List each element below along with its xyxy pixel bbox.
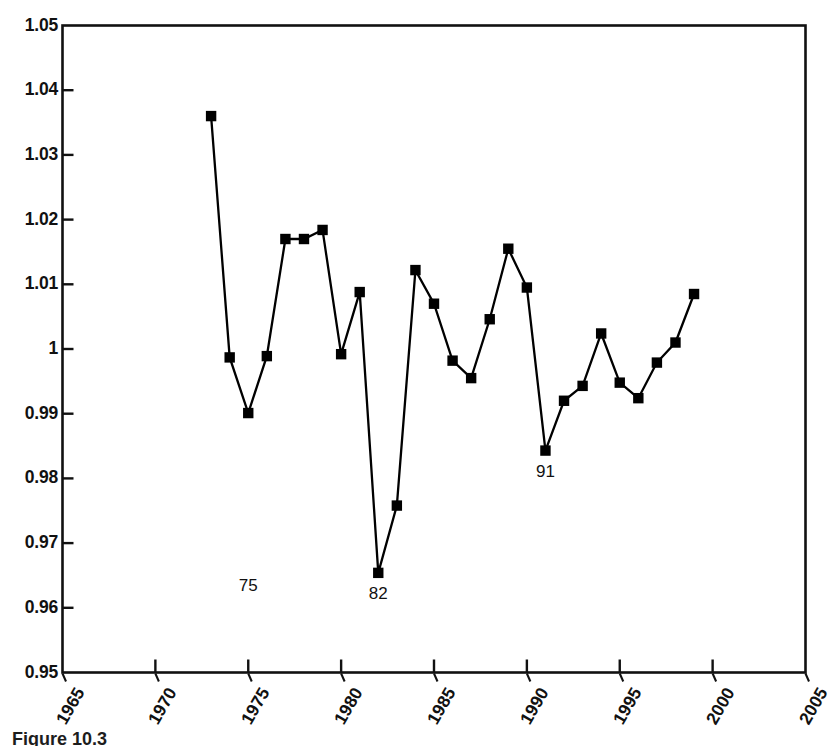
line-chart-plot: 758291 bbox=[0, 0, 834, 746]
data-point-marker bbox=[615, 377, 625, 387]
data-point-marker bbox=[485, 314, 495, 324]
data-point-marker bbox=[336, 349, 346, 359]
data-point-marker bbox=[317, 225, 327, 235]
data-point-marker bbox=[559, 396, 569, 406]
data-point-marker bbox=[577, 381, 587, 391]
data-point-marker bbox=[206, 111, 216, 121]
data-point-marker bbox=[262, 351, 272, 361]
data-point-markers bbox=[206, 111, 699, 578]
figure-caption: Figure 10.3 bbox=[12, 729, 107, 746]
plot-frame bbox=[63, 26, 806, 673]
y-axis-ticks bbox=[63, 90, 74, 608]
data-point-marker bbox=[540, 445, 550, 455]
data-point-marker bbox=[243, 408, 253, 418]
annotation-label: 91 bbox=[536, 462, 555, 481]
point-annotations: 758291 bbox=[239, 462, 555, 603]
data-point-marker bbox=[652, 357, 662, 367]
data-point-marker bbox=[429, 299, 439, 309]
data-point-marker bbox=[633, 393, 643, 403]
data-point-marker bbox=[522, 282, 532, 292]
data-point-marker bbox=[466, 373, 476, 383]
data-point-marker bbox=[355, 287, 365, 297]
data-point-marker bbox=[373, 568, 383, 578]
x-axis-ticks bbox=[63, 660, 810, 682]
data-point-marker bbox=[689, 289, 699, 299]
data-point-marker bbox=[392, 500, 402, 510]
annotation-label: 82 bbox=[369, 584, 388, 603]
data-point-marker bbox=[670, 337, 680, 347]
data-series-line bbox=[211, 116, 694, 573]
data-point-marker bbox=[503, 244, 513, 254]
data-point-marker bbox=[280, 234, 290, 244]
data-point-marker bbox=[596, 328, 606, 338]
figure-container: 1.051.041.031.021.0110.990.980.970.960.9… bbox=[0, 0, 834, 746]
annotation-label: 75 bbox=[239, 576, 258, 595]
data-point-marker bbox=[299, 234, 309, 244]
data-point-marker bbox=[410, 265, 420, 275]
data-point-marker bbox=[224, 352, 234, 362]
data-point-marker bbox=[447, 355, 457, 365]
